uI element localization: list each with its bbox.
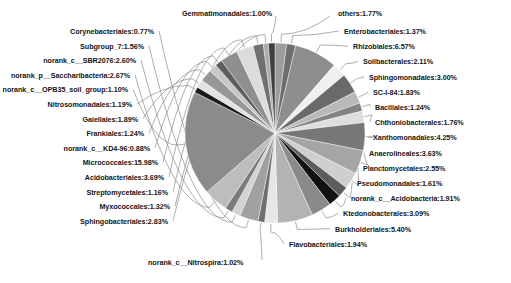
leader-line — [271, 16, 276, 42]
pie-label-right-12: Ktedonobacterales:3.09% — [343, 209, 429, 218]
leader-line — [317, 45, 348, 52]
pie-chart-figure: Gemmatimonadales:1.00% others:1.77% Ente… — [0, 0, 511, 283]
leader-line — [137, 85, 195, 104]
pie-label-right-2: Solibacterales:2.11% — [363, 57, 433, 66]
pie-slices-group — [185, 43, 365, 223]
leader-line — [291, 31, 339, 44]
pie-label-left-9: Micrococcales:15.98% — [0, 158, 158, 167]
pie-label-left-11: Streptomycetales:1.16% — [0, 188, 168, 197]
leader-line — [335, 198, 346, 207]
leader-line — [296, 222, 331, 230]
leader-line — [359, 92, 368, 97]
pie-label-right-11: norank_c__Acidobacteria:1.91% — [351, 194, 460, 203]
leader-line — [351, 77, 364, 83]
leader-line — [340, 61, 358, 69]
leader-line — [281, 16, 330, 42]
pie-label-left-12: Myxococcales:1.32% — [0, 202, 170, 211]
pie-label-right-7: Xanthomonadales:4.25% — [373, 133, 457, 142]
leader-line — [322, 211, 338, 218]
pie-label-right-4: SC-I-84:1.83% — [373, 88, 420, 97]
leader-line — [365, 115, 373, 122]
pie-label-right-9: Planctomycetales:2.55% — [363, 164, 445, 173]
pie-label-right-5: Bacillales:1.24% — [375, 103, 430, 112]
pie-label-right-13: Burkholderiales:5.40% — [335, 225, 411, 234]
pie-label-gemmatimonadales: Gemmatimonadales:1.00% — [152, 9, 272, 18]
pie-label-left-4: norank_c__OPB35_soil_group:1.10% — [0, 85, 128, 94]
pie-label-left-6: Gaiellales:1.89% — [0, 115, 138, 124]
pie-label-right-1: Rhizobiales:6.57% — [353, 42, 415, 51]
pie-label-right-8: Anaerolineales:3.63% — [369, 149, 442, 158]
pie-label-left-3: norank_p__Saccharibacteria:2.67% — [0, 71, 130, 80]
pie-label-left-1: Subgroup_7:1.56% — [0, 42, 144, 51]
pie-label-right-10: Pseudomonadales:1.61% — [357, 179, 442, 188]
pie-label-left-7: Frankiales:1.24% — [0, 129, 144, 138]
pie-label-right-0: Enterobacteriales:1.37% — [344, 27, 426, 36]
pie-label-left-10: Acidobacteriales:3.69% — [0, 173, 164, 182]
pie-label-right-14: Flavobacteriales:1.94% — [289, 240, 367, 249]
pie-label-others: others:1.77% — [338, 9, 382, 18]
leader-line — [260, 223, 262, 260]
pie-label-left-2: norank_c__SBR2076:2.60% — [0, 56, 136, 65]
pie-label-left-5: Nitrosomonadales:1.19% — [0, 100, 132, 109]
pie-label-bottom-0: norank_c__Nitrospira:1.02% — [148, 258, 243, 267]
leader-line — [362, 104, 370, 107]
pie-label-right-6: Chthoniobacterales:1.76% — [375, 118, 464, 127]
pie-label-left-13: Sphingobacteriales:2.83% — [0, 217, 168, 226]
pie-label-left-0: Corynebacteriales:0.77% — [0, 27, 154, 36]
pie-label-right-3: Sphingomonadales:3.00% — [369, 73, 457, 82]
leader-line — [271, 224, 284, 244]
pie-label-left-8: norank_c__KD4-96:0.88% — [0, 144, 150, 153]
